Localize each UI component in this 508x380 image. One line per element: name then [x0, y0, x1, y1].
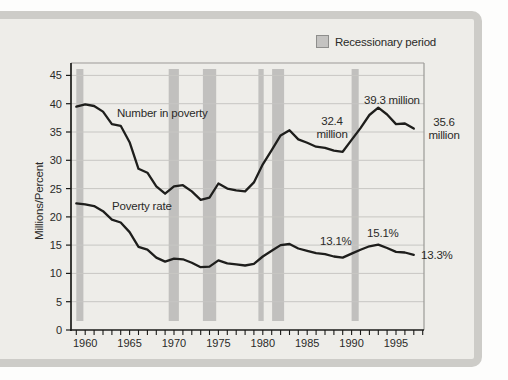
y-tick-label: 35 [50, 126, 62, 138]
y-tick-label: 25 [50, 183, 62, 195]
x-tick-label: 1995 [384, 337, 408, 349]
legend-label: Recessionary period [335, 36, 436, 48]
y-tick-label: 0 [56, 324, 62, 336]
y-tick-label: 15 [50, 239, 62, 251]
series-line-poverty-rate [76, 203, 414, 267]
annotation-39-3-million: 39.3 million [364, 94, 420, 107]
x-tick-label: 1975 [206, 337, 230, 349]
annotation-15-1-percent: 15.1% [367, 227, 399, 240]
figure-canvas: 0510152025303540451960196519701975198019… [0, 0, 508, 380]
y-axis-title: Millions/Percent [33, 162, 45, 240]
poverty-line-chart: 0510152025303540451960196519701975198019… [0, 0, 508, 380]
x-tick-label: 1960 [73, 337, 97, 349]
y-tick-label: 5 [56, 296, 62, 308]
recession-band [258, 69, 263, 321]
y-tick-label: 10 [50, 267, 62, 279]
x-tick-label: 1965 [117, 337, 141, 349]
y-tick-label: 30 [50, 154, 62, 166]
x-tick-label: 1990 [339, 337, 363, 349]
annotation-32-4-million: 32.4 million [306, 115, 358, 140]
series-label-poverty-rate: Poverty rate [112, 200, 172, 213]
chart-legend: Recessionary period [316, 35, 436, 48]
annotation-13-1-percent: 13.1% [320, 235, 352, 248]
y-tick-label: 20 [50, 211, 62, 223]
annotation-13-3-percent: 13.3% [421, 249, 453, 262]
recession-band [272, 69, 284, 321]
x-tick-label: 1985 [295, 337, 319, 349]
y-tick-label: 45 [50, 69, 62, 81]
recession-swatch-icon [316, 35, 329, 48]
x-tick-label: 1980 [251, 337, 275, 349]
y-tick-label: 40 [50, 98, 62, 110]
x-tick-label: 1970 [162, 337, 186, 349]
recession-band [352, 69, 359, 321]
series-label-number-in-poverty: Number in poverty [117, 107, 208, 120]
annotation-35-6-million: 35.6 million [422, 116, 466, 141]
